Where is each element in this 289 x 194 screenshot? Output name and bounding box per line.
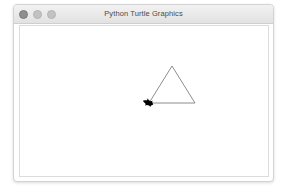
turtle-canvas-area[interactable] [19, 25, 269, 177]
turtle-drawing-surface[interactable] [20, 26, 268, 176]
screen: Python Turtle Graphics [0, 0, 289, 194]
window-title: Python Turtle Graphics [14, 8, 273, 20]
turtle-graphics-window[interactable]: Python Turtle Graphics [13, 4, 274, 182]
window-titlebar[interactable]: Python Turtle Graphics [14, 5, 273, 24]
